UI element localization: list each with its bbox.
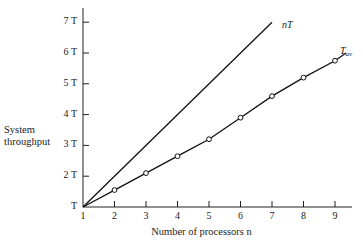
tav-data-marker [144,171,149,176]
x-tick-label: 8 [298,210,310,221]
y-tick-label: 6 T [51,46,77,57]
y-tick-label: 4 T [51,108,77,119]
y-axis-label-line1: System [4,124,50,136]
y-tick-label: 7 T [51,15,77,26]
x-tick-label: 4 [172,210,184,221]
x-axis-label: Number of processors n [0,226,363,237]
x-axis-label-text: Number of processors n [151,226,252,237]
series-line-tav [83,53,346,207]
y-axis-label-line2: throughput [4,136,50,148]
tav-data-marker [301,75,306,80]
y-tick-label: 2 T [51,169,77,180]
y-tick-label: T [51,200,77,211]
x-tick-label: 1 [77,210,89,221]
series-label-nT: nT [282,19,293,30]
tav-data-marker [238,115,243,120]
series-line-nT [83,22,272,207]
tav-data-marker [207,137,212,142]
x-tick-label: 7 [266,210,278,221]
series-label-nT-text: nT [282,19,293,30]
y-tick-label: 3 T [51,138,77,149]
tav-data-marker [333,58,338,63]
tav-data-marker [112,188,117,193]
y-axis-label: System throughput [4,124,50,148]
x-tick-label: 9 [329,210,341,221]
tav-data-marker [270,94,275,99]
y-tick-label: 5 T [51,77,77,88]
x-tick-label: 6 [235,210,247,221]
series-label-tav-sub: av [346,50,353,58]
tav-data-marker [175,154,180,159]
x-tick-label: 5 [203,210,215,221]
x-tick-label: 3 [140,210,152,221]
x-tick-label: 2 [109,210,121,221]
series-label-tav: Tav [340,45,352,58]
